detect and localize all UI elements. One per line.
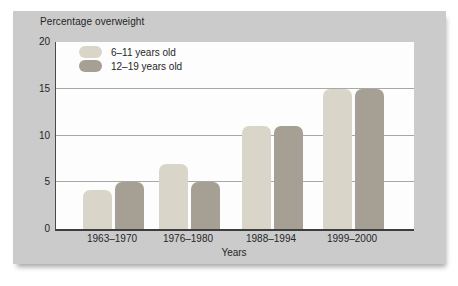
x-tick-label-1999–2000: 1999–2000 (327, 233, 377, 244)
y-tick-label-5: 5 (13, 176, 50, 187)
legend-item: 12–19 years old (79, 59, 182, 73)
bar-teen-1963–1970 (115, 182, 144, 229)
bar-young-1976–1980 (159, 164, 188, 229)
bar-young-1963–1970 (83, 190, 112, 229)
bar-young-1999–2000 (323, 89, 352, 229)
legend-label: 6–11 years old (111, 47, 176, 58)
x-tick-label-1976–1980: 1976–1980 (163, 233, 213, 244)
legend-item: 6–11 years old (79, 45, 182, 59)
legend-label: 12–19 years old (111, 61, 182, 72)
figure: Percentage overweight 05101520 6–11 year… (0, 0, 458, 286)
y-tick-label-20: 20 (13, 36, 50, 47)
plot-area: 6–11 years old 12–19 years old (55, 42, 414, 231)
x-axis: 1963–19701976–19801988–19941999–2000 (55, 233, 413, 246)
y-tick-label-10: 10 (13, 130, 50, 141)
chart-panel: Percentage overweight 05101520 6–11 year… (13, 11, 446, 264)
x-axis-title: Years (55, 247, 413, 258)
bar-teen-1988–1994 (274, 126, 303, 229)
x-tick-label-1963–1970: 1963–1970 (87, 233, 137, 244)
bar-young-1988–1994 (242, 126, 271, 229)
x-tick-label-1988–1994: 1988–1994 (246, 233, 296, 244)
bar-teen-1999–2000 (355, 89, 384, 229)
legend-swatch-series-0 (79, 46, 102, 58)
chart-title: Percentage overweight (40, 16, 144, 27)
y-axis: 05101520 (13, 42, 50, 229)
legend-swatch-series-1 (79, 60, 102, 72)
bar-teen-1976–1980 (191, 182, 220, 229)
y-tick-label-15: 15 (13, 83, 50, 94)
legend: 6–11 years old 12–19 years old (79, 45, 182, 73)
y-tick-label-0: 0 (13, 223, 50, 234)
